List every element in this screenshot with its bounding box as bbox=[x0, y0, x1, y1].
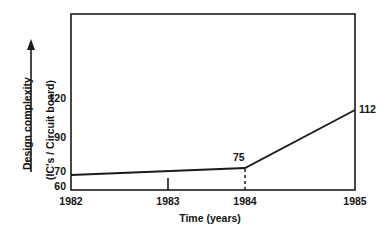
chart-figure: Design complexity (IC's / Circuit board)… bbox=[0, 0, 388, 242]
x-tick-label-1982: 1982 bbox=[49, 196, 93, 207]
y-axis-title-primary: Design complexity bbox=[22, 77, 33, 170]
data-label-75: 75 bbox=[233, 152, 245, 163]
data-label-112: 112 bbox=[359, 104, 376, 115]
y-tick-label-60: 60 bbox=[36, 181, 66, 192]
x-tick-label-1983: 1983 bbox=[146, 196, 190, 207]
x-tick-label-1984: 1984 bbox=[223, 196, 267, 207]
y-tick-label-120: 120 bbox=[36, 93, 66, 104]
data-line-design-complexity bbox=[71, 110, 355, 175]
x-tick-label-1985: 1985 bbox=[333, 196, 377, 207]
x-axis-title: Time (years) bbox=[150, 213, 270, 224]
y-tick-label-90: 90 bbox=[36, 132, 66, 143]
y-axis-arrow-head-icon bbox=[27, 39, 35, 50]
y-tick-label-70: 70 bbox=[36, 166, 66, 177]
plot-frame bbox=[71, 14, 355, 190]
